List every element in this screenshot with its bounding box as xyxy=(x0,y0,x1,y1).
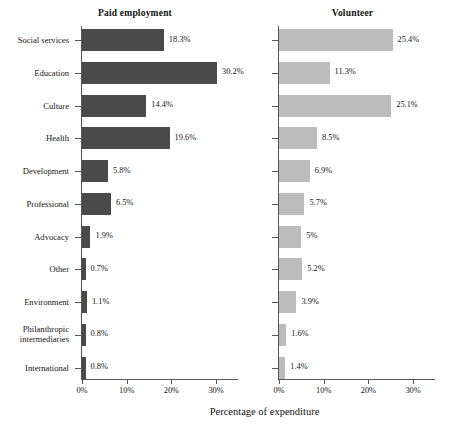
category-label: Culture xyxy=(0,101,69,111)
x-axis-tick-label: 30% xyxy=(405,386,420,395)
bar xyxy=(279,258,302,280)
x-axis-tick xyxy=(171,380,172,384)
bar xyxy=(82,258,86,280)
y-axis-tick xyxy=(272,171,278,172)
bar xyxy=(279,29,393,51)
y-axis-tick xyxy=(272,269,278,270)
panel-title-volunteer: Volunteer xyxy=(290,8,415,18)
category-label: International xyxy=(0,363,69,373)
bar xyxy=(279,324,286,346)
bar xyxy=(279,226,301,248)
bar xyxy=(82,226,90,248)
category-label: Social services xyxy=(0,35,69,45)
bar-value-label: 1.6% xyxy=(291,329,308,338)
x-axis-tick-label: 20% xyxy=(361,386,376,395)
y-axis-tick xyxy=(75,368,81,369)
category-label: Professional xyxy=(0,199,69,209)
x-axis-tick-label: 10% xyxy=(119,386,134,395)
y-axis-tick xyxy=(272,335,278,336)
y-axis-tick xyxy=(75,237,81,238)
bar-value-label: 8.5% xyxy=(322,133,339,142)
panel-volunteer: 25.4%11.3%25.1%8.5%6.9%5.7%5%5.2%3.9%1.6… xyxy=(278,26,430,387)
x-axis-tick-label: 30% xyxy=(208,386,223,395)
y-axis-tick xyxy=(75,73,81,74)
bar-value-label: 25.4% xyxy=(398,35,420,44)
x-axis-tick xyxy=(413,380,414,384)
y-axis-tick xyxy=(272,40,278,41)
bar-value-label: 0.7% xyxy=(91,264,108,273)
x-axis-tick-label: 0% xyxy=(76,386,87,395)
bar-value-label: 5% xyxy=(306,231,317,240)
bar-value-label: 19.6% xyxy=(175,133,197,142)
y-axis-tick xyxy=(75,138,81,139)
bar xyxy=(279,127,317,149)
bar-value-label: 25.1% xyxy=(396,100,418,109)
bar-value-label: 5.8% xyxy=(113,166,130,175)
bar-value-label: 18.3% xyxy=(169,35,191,44)
bar xyxy=(279,291,296,313)
bar-value-label: 0.8% xyxy=(91,329,108,338)
x-axis-title: Percentage of expenditure xyxy=(0,406,473,417)
bar xyxy=(279,357,285,379)
bar-value-label: 11.3% xyxy=(335,67,356,76)
bar-value-label: 6.9% xyxy=(315,166,332,175)
panel-paid-employment: 18.3%30.2%14.4%19.6%5.8%6.5%1.9%0.7%1.1%… xyxy=(81,26,233,387)
bar xyxy=(82,193,111,215)
x-axis-title-text: Percentage of expenditure xyxy=(210,406,320,417)
x-axis-tick-label: 0% xyxy=(273,386,284,395)
x-axis-tick xyxy=(216,380,217,384)
bar xyxy=(279,62,330,84)
y-axis-tick xyxy=(75,335,81,336)
bar xyxy=(82,62,217,84)
y-axis-tick xyxy=(75,106,81,107)
bar xyxy=(82,291,87,313)
bar-value-label: 0.8% xyxy=(91,362,108,371)
category-label: Education xyxy=(0,68,69,78)
x-axis-tick-label: 20% xyxy=(164,386,179,395)
y-axis-tick xyxy=(272,106,278,107)
y-axis-tick xyxy=(75,171,81,172)
x-axis-tick xyxy=(324,380,325,384)
y-axis-tick xyxy=(75,40,81,41)
bar-value-label: 3.9% xyxy=(301,297,318,306)
category-label: Environment xyxy=(0,297,69,307)
bar-value-label: 5.2% xyxy=(307,264,324,273)
x-axis-tick xyxy=(127,380,128,384)
y-axis-tick xyxy=(75,269,81,270)
bar xyxy=(82,357,86,379)
panel-title-paid-employment: Paid employment xyxy=(60,8,210,18)
category-label: Philanthropic intermediaries xyxy=(0,325,69,344)
x-axis-tick xyxy=(279,380,280,384)
y-axis-tick xyxy=(75,204,81,205)
bar xyxy=(279,193,304,215)
bar xyxy=(82,160,108,182)
x-axis-tick-label: 10% xyxy=(316,386,331,395)
bar-value-label: 6.5% xyxy=(116,198,133,207)
bar xyxy=(82,324,86,346)
bar xyxy=(82,95,146,117)
bar-value-label: 1.9% xyxy=(95,231,112,240)
bar-value-label: 5.7% xyxy=(309,198,326,207)
category-label: Advocacy xyxy=(0,232,69,242)
category-label: Other xyxy=(0,264,69,274)
bar-value-label: 1.4% xyxy=(290,362,307,371)
x-axis-line xyxy=(81,379,238,380)
bar xyxy=(279,160,310,182)
bar-value-label: 1.1% xyxy=(92,297,109,306)
y-axis-tick xyxy=(272,368,278,369)
bar xyxy=(82,29,164,51)
y-axis-tick xyxy=(272,73,278,74)
y-axis-tick xyxy=(272,204,278,205)
y-axis-tick xyxy=(272,302,278,303)
bar xyxy=(279,95,391,117)
category-label: Health xyxy=(0,133,69,143)
x-axis-tick xyxy=(368,380,369,384)
category-label: Development xyxy=(0,166,69,176)
x-axis-tick xyxy=(82,380,83,384)
grouped-bar-chart: Paid employment Volunteer Social service… xyxy=(0,0,473,436)
y-axis-tick xyxy=(272,138,278,139)
bar xyxy=(82,127,170,149)
x-axis-line xyxy=(278,379,435,380)
bar-value-label: 14.4% xyxy=(151,100,173,109)
y-axis-tick xyxy=(75,302,81,303)
